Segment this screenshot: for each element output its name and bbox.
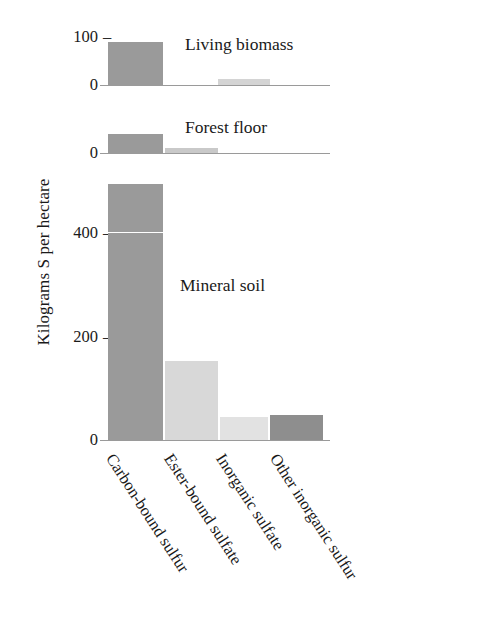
y-tick-0-label-top: 0 xyxy=(48,75,98,95)
bar-living-biomass-ester-bound-sulfate xyxy=(218,79,270,85)
x-axis-labels: Carbon-bound sulfur Ester-bound sulfate … xyxy=(0,446,480,639)
y-tick-200-label: 200 xyxy=(40,327,98,347)
panel-title-living-biomass: Living biomass xyxy=(185,34,293,55)
bar-mineral-soil-ester-bound-sulfate xyxy=(165,361,218,440)
x-label-other-inorganic-sulfur: Other inorganic sulfur xyxy=(265,450,361,584)
y-tick-400-label: 400 xyxy=(40,223,98,243)
panel-living-biomass: 100 – 0 Living biomass xyxy=(0,0,480,100)
bar-living-biomass-carbon-bound-sulfur xyxy=(108,42,163,85)
panel-mineral-soil: 400 – 200 – 0 Mineral soil xyxy=(0,175,480,446)
panel-baseline-mid xyxy=(100,153,330,154)
bar-forest-floor-carbon-bound-sulfur xyxy=(108,134,163,153)
gridline-400-overlay xyxy=(108,232,163,233)
bar-mineral-soil-inorganic-sulfate xyxy=(220,417,268,440)
panel-forest-floor: 0 Forest floor xyxy=(0,105,480,165)
panel-baseline-main xyxy=(100,440,330,441)
bar-mineral-soil-carbon-bound-sulfur xyxy=(108,184,163,440)
y-tick-0-label-mid: 0 xyxy=(48,143,98,163)
y-tick-100-label: 100 xyxy=(48,27,98,47)
sulfur-pools-bar-chart: Kilograms S per hectare 100 – 0 Living b… xyxy=(0,0,480,639)
panel-title-forest-floor: Forest floor xyxy=(185,117,267,138)
bar-mineral-soil-other-inorganic-sulfur xyxy=(270,415,323,440)
panel-baseline-top xyxy=(100,85,330,86)
bar-forest-floor-ester-bound-sulfate xyxy=(165,148,218,153)
panel-title-mineral-soil: Mineral soil xyxy=(180,275,265,296)
